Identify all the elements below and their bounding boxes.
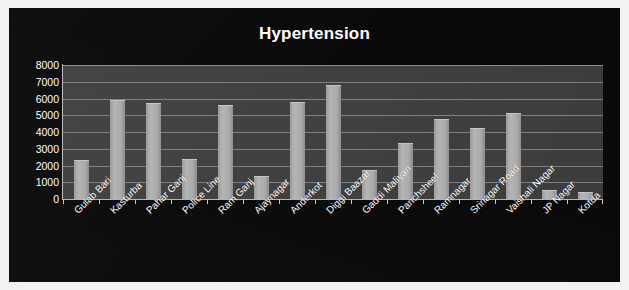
y-tick-label-3000: 3000	[13, 144, 59, 154]
x-axis-category-labels: Gulab BariKasturbaPahar GanjPolice LineR…	[9, 204, 620, 282]
y-tick-label-1000: 1000	[13, 177, 59, 187]
chart-canvas: Hypertension 800070006000500040003000200…	[9, 8, 620, 282]
y-tick-label-0: 0	[13, 194, 59, 204]
bar-diggi-baazar[interactable]	[326, 85, 341, 199]
y-axis-tick-labels: 800070006000500040003000200010000	[9, 65, 59, 199]
chart-title: Hypertension	[9, 24, 620, 44]
y-tick-label-4000: 4000	[13, 127, 59, 137]
bar-pahar-ganj[interactable]	[146, 103, 161, 199]
y-tick-label-8000: 8000	[13, 60, 59, 70]
bar-ramnagar[interactable]	[434, 119, 449, 199]
y-tick-label-7000: 7000	[13, 77, 59, 87]
y-tick-label-5000: 5000	[13, 110, 59, 120]
page-background: Hypertension 800070006000500040003000200…	[0, 0, 629, 290]
bar-vaishali-nagar[interactable]	[506, 113, 521, 199]
y-tick-label-6000: 6000	[13, 94, 59, 104]
bar-ram-ganj[interactable]	[218, 105, 233, 199]
y-tick-label-2000: 2000	[13, 161, 59, 171]
bar-srinagar-road[interactable]	[470, 128, 485, 199]
bars-layer	[63, 65, 603, 199]
bar-kasturba[interactable]	[110, 100, 125, 199]
bar-anderkot[interactable]	[290, 102, 305, 199]
plot-area	[63, 65, 603, 199]
